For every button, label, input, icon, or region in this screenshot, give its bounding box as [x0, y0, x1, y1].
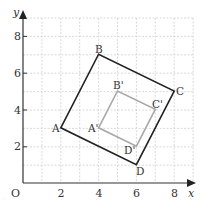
- axes: [23, 16, 190, 183]
- image-square: [99, 91, 156, 146]
- x-axis-label: x: [188, 187, 195, 200]
- vertex-label-A-prime: A': [87, 122, 98, 134]
- x-tick-2: 2: [58, 187, 65, 200]
- grid: [23, 18, 193, 183]
- vertex-label-B: B: [95, 43, 103, 55]
- y-axis-arrow-icon: [19, 10, 27, 19]
- origin-label: O: [11, 187, 20, 200]
- x-axis-arrow-icon: [187, 179, 196, 187]
- vertex-label-A: A: [51, 122, 60, 134]
- vertex-label-D: D: [136, 165, 144, 177]
- x-tick-6: 6: [133, 187, 140, 200]
- x-tick-4: 4: [96, 187, 103, 200]
- y-tick-4: 4: [14, 104, 21, 117]
- vertex-label-C: C: [176, 85, 184, 97]
- vertex-label-B-prime: B': [113, 79, 124, 91]
- diagram-canvas: y x O 8 6 4 2 2 4 6 8 A B C D A' B' C' D…: [0, 0, 205, 206]
- coordinate-diagram: y x O 8 6 4 2 2 4 6 8 A B C D A' B' C' D…: [0, 0, 205, 206]
- vertex-label-C-prime: C': [152, 98, 163, 110]
- x-tick-8: 8: [171, 187, 178, 200]
- y-tick-2: 2: [14, 140, 21, 153]
- y-tick-8: 8: [14, 30, 21, 43]
- y-axis-label: y: [12, 6, 20, 19]
- vertex-label-D-prime: D': [124, 144, 135, 156]
- y-tick-6: 6: [14, 67, 21, 80]
